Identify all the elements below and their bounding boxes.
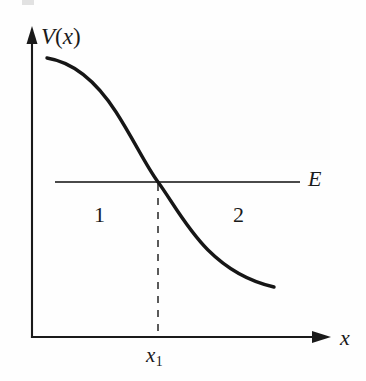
- turning-point-label: x1: [146, 345, 163, 369]
- y-axis-label: V(x): [41, 25, 81, 48]
- y-axis-label-arg: x: [63, 24, 73, 49]
- y-axis-label-open-paren: (: [55, 24, 63, 49]
- x-axis-arrow-icon: [312, 331, 331, 343]
- potential-energy-diagram: V(x) E x x1 1 2: [0, 0, 366, 381]
- turning-point-var: x: [146, 343, 155, 367]
- x-axis-label: x: [340, 327, 350, 349]
- potential-curve: [47, 58, 274, 287]
- region-label-1: 1: [94, 204, 105, 226]
- energy-level-label: E: [308, 168, 321, 190]
- y-axis-label-close-paren: ): [73, 24, 81, 49]
- turning-point-subscript: 1: [156, 354, 163, 369]
- y-axis-arrow-icon: [27, 26, 38, 44]
- region-label-2: 2: [233, 204, 244, 226]
- y-axis-label-var: V: [41, 24, 55, 49]
